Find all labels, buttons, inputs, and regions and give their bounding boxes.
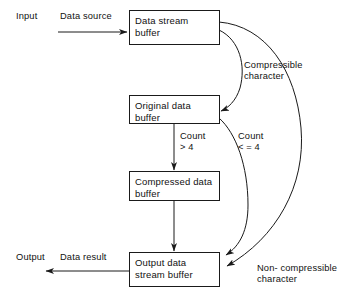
node-original-data-buffer[interactable]: Original data buffer: [129, 95, 220, 124]
node-data-stream-buffer[interactable]: Data stream buffer: [129, 10, 220, 45]
io-label-input: Input: [16, 11, 37, 21]
node-output-data-stream-buffer[interactable]: Output data stream buffer: [129, 252, 220, 287]
edge-label-non-compressible-character: Non- compressible character: [257, 263, 337, 286]
edge-label-count-less-equal-4: Count < = 4: [238, 131, 264, 154]
edge-compressible-character: [219, 30, 242, 111]
edge-label-compressible-character: Compressible character: [244, 60, 303, 83]
io-label-data-source: Data source: [60, 11, 112, 21]
diagram-canvas: Input Data source Output Data result Dat…: [0, 0, 351, 299]
io-label-data-result: Data result: [60, 252, 107, 262]
edge-label-count-greater-than-4: Count > 4: [180, 131, 206, 154]
node-compressed-data-buffer[interactable]: Compressed data buffer: [129, 171, 220, 201]
io-label-output: Output: [16, 252, 45, 262]
